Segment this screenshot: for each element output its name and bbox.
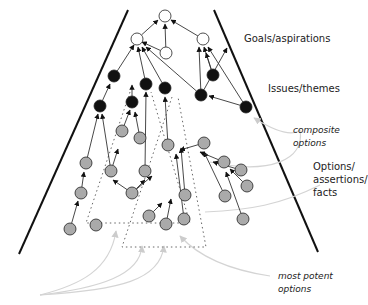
edge-arrow [124, 110, 130, 125]
label-composite-options: composite options [293, 124, 368, 150]
option-node [116, 125, 128, 137]
edges [72, 20, 243, 223]
option-node [162, 139, 174, 151]
annotation-curves [40, 118, 320, 295]
option-node [198, 137, 210, 149]
issue-node [126, 96, 138, 108]
option-node [241, 180, 253, 192]
option-node [134, 132, 146, 144]
decision-pyramid-diagram [0, 0, 368, 305]
option-node [160, 218, 172, 230]
issue-node [140, 78, 152, 90]
issue-nodes [94, 69, 252, 113]
option-nodes [64, 125, 253, 235]
label-goals-aspirations: Goals/aspirations [244, 32, 330, 45]
edge-arrow [167, 199, 171, 218]
option-node [235, 164, 247, 176]
edge-arrow [102, 84, 110, 101]
option-node [80, 157, 92, 169]
edge-arrow [165, 97, 168, 139]
edge-arrow [142, 42, 161, 51]
option-node [90, 219, 102, 231]
issue-node [195, 89, 207, 101]
edge-arrow [199, 47, 201, 89]
edge-arrow [102, 114, 110, 165]
edge-arrow [87, 114, 98, 157]
edge-arrow [153, 203, 162, 212]
label-options-assertions-facts: Options/ assertions/ facts [313, 160, 368, 199]
edge-arrow [137, 176, 152, 189]
edge-arrow [113, 180, 127, 190]
issue-node [207, 69, 219, 81]
edge-arrow [117, 45, 134, 71]
label-most-potent-options: most potent options [278, 270, 368, 296]
edge-arrow [200, 152, 218, 160]
goal-node [159, 10, 171, 22]
option-node [178, 213, 190, 225]
edge-arrow [204, 48, 227, 90]
edge-arrow [165, 24, 166, 47]
option-node [105, 165, 117, 177]
issue-node [108, 70, 120, 82]
option-node [219, 190, 231, 202]
option-node [218, 156, 230, 168]
goal-nodes [131, 10, 209, 59]
edge-arrow [72, 201, 78, 223]
label-issues-themes: Issues/themes [268, 82, 340, 95]
option-node [179, 189, 191, 201]
edge-arrow [145, 92, 146, 165]
edge-arrow [113, 149, 118, 165]
issue-node [240, 101, 252, 113]
goal-node [131, 33, 143, 45]
goal-node [160, 47, 172, 59]
edge-arrow [209, 96, 240, 105]
edge-arrow [135, 112, 139, 132]
edge-arrow [138, 47, 145, 78]
issue-node [94, 100, 106, 112]
goal-node [197, 33, 209, 45]
option-node [143, 210, 155, 222]
edge-arrow [82, 172, 84, 187]
edge-arrow [206, 53, 211, 69]
edge-arrow [141, 20, 158, 35]
edge-arrow [181, 148, 184, 189]
option-node [237, 213, 249, 225]
option-node [75, 187, 87, 199]
option-node [139, 165, 151, 177]
edge-arrow [180, 145, 198, 150]
edge-arrow [136, 180, 145, 189]
issue-node [159, 82, 171, 94]
edge-arrow [171, 20, 198, 36]
option-node [126, 187, 138, 199]
option-node [64, 223, 76, 235]
